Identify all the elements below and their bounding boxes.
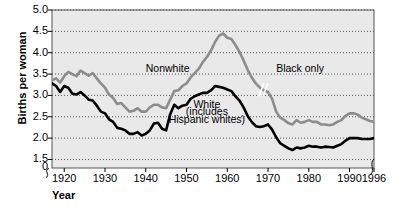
- annotation-white-hispanic: Hispanic whites): [147, 114, 267, 126]
- x-tick-label: 1930: [85, 172, 125, 184]
- x-tick-label: 1960: [207, 172, 247, 184]
- x-tick-label: 1970: [248, 172, 288, 184]
- x-axis-label: Year: [52, 189, 75, 201]
- annotation-black-only: Black only: [276, 63, 324, 75]
- x-tick-label: 1996: [354, 172, 394, 184]
- x-axis-tick-labels: 192019301940195019601970198019901996: [0, 172, 412, 188]
- y-tick-marks: [48, 10, 52, 159]
- x-tick-label: 1940: [126, 172, 166, 184]
- x-tick-label: 1980: [289, 172, 329, 184]
- chart-figure: Births per woman 5.04.54.03.53.02.52.01.…: [0, 0, 412, 216]
- annotation-nonwhite: Nonwhite: [146, 63, 190, 75]
- x-tick-label: 1920: [44, 172, 84, 184]
- x-tick-label: 1950: [167, 172, 207, 184]
